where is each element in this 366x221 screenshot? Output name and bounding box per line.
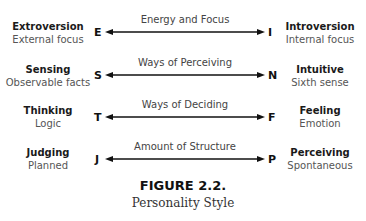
figure-number: FIGURE 2.2. bbox=[0, 178, 366, 193]
letter-e: E bbox=[94, 26, 102, 39]
letter-s: S bbox=[94, 69, 102, 82]
pole-subtitle: External focus bbox=[0, 33, 96, 46]
double-arrow-icon bbox=[105, 27, 265, 37]
extroversion-label: Extroversion External focus bbox=[0, 20, 96, 46]
judging-label: Judging Planned bbox=[0, 146, 96, 172]
pole-subtitle: Observable facts bbox=[0, 76, 96, 89]
figure-title: Personality Style bbox=[0, 196, 366, 210]
pole-subtitle: Spontaneous bbox=[272, 159, 366, 172]
pole-subtitle: Internal focus bbox=[272, 33, 366, 46]
axis-label-deciding: Ways of Deciding bbox=[110, 99, 260, 110]
letter-j: J bbox=[95, 153, 99, 166]
pole-title: Sensing bbox=[0, 63, 96, 76]
pole-title: Judging bbox=[0, 146, 96, 159]
double-arrow-icon bbox=[105, 70, 265, 80]
axis-label-perceiving: Ways of Perceiving bbox=[110, 57, 260, 68]
pole-subtitle: Sixth sense bbox=[272, 76, 366, 89]
perceiving-label: Perceiving Spontaneous bbox=[272, 146, 366, 172]
pole-title: Intuitive bbox=[272, 63, 366, 76]
axis-label-structure: Amount of Structure bbox=[110, 141, 260, 152]
double-arrow-icon bbox=[105, 154, 265, 164]
thinking-label: Thinking Logic bbox=[0, 104, 96, 130]
double-arrow-icon bbox=[105, 112, 265, 122]
letter-t: T bbox=[94, 111, 102, 124]
axis-label-energy: Energy and Focus bbox=[110, 14, 260, 25]
pole-subtitle: Logic bbox=[0, 117, 96, 130]
pole-title: Perceiving bbox=[272, 146, 366, 159]
pole-title: Introversion bbox=[272, 20, 366, 33]
pole-title: Feeling bbox=[272, 104, 366, 117]
pole-title: Thinking bbox=[0, 104, 96, 117]
introversion-label: Introversion Internal focus bbox=[272, 20, 366, 46]
sensing-label: Sensing Observable facts bbox=[0, 63, 96, 89]
pole-subtitle: Emotion bbox=[272, 117, 366, 130]
intuitive-label: Intuitive Sixth sense bbox=[272, 63, 366, 89]
pole-title: Extroversion bbox=[0, 20, 96, 33]
feeling-label: Feeling Emotion bbox=[272, 104, 366, 130]
pole-subtitle: Planned bbox=[0, 159, 96, 172]
